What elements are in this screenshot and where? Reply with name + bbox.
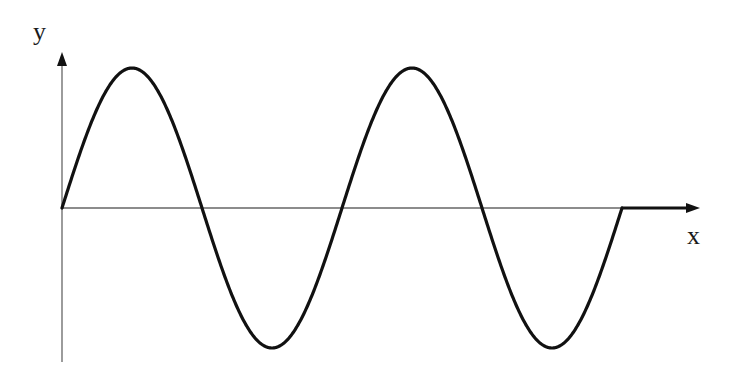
y-axis-label: y <box>33 17 46 46</box>
waveform-diagram: y x <box>0 0 737 373</box>
y-axis-arrow-icon <box>57 52 67 66</box>
x-axis-label: x <box>687 221 700 250</box>
